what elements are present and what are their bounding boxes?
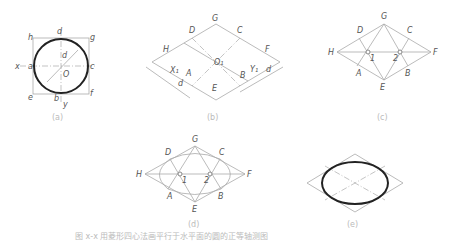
label-G: G [212, 14, 218, 23]
label-diameter: d [62, 51, 68, 60]
label-2: 2 [393, 54, 398, 63]
panel-c: G D C H F 1 2 A B E (c) [328, 12, 438, 122]
label-C: C [219, 148, 225, 157]
label-A: A [166, 192, 172, 201]
label-D: D [165, 148, 171, 157]
label-C: C [407, 26, 413, 35]
label-c: c [90, 62, 95, 71]
label-C: C [237, 26, 243, 35]
label-H: H [328, 48, 334, 57]
label-O: O [63, 70, 69, 79]
label-F: F [265, 45, 270, 54]
label-b: b [54, 94, 59, 103]
label-X1: X₁ [169, 66, 179, 75]
label-1: 1 [182, 176, 187, 185]
label-d-right: d [266, 65, 272, 74]
panel-e: (e) [307, 154, 403, 229]
label-D: D [189, 26, 195, 35]
label-h: h [28, 33, 33, 42]
label-G: G [192, 135, 198, 144]
label-D: D [357, 26, 363, 35]
isometric-circle-diagram: h d g x a c d O e b y f (a) G D C H F O₁… [0, 0, 450, 242]
label-x: x [14, 62, 20, 71]
caption-b: (b) [207, 113, 218, 122]
label-H: H [163, 45, 169, 54]
label-g: g [90, 33, 95, 42]
label-f: f [90, 89, 94, 98]
label-Y1: Y₁ [250, 65, 258, 74]
label-E: E [212, 84, 218, 93]
caption-a: (a) [52, 113, 63, 122]
caption-c: (c) [377, 113, 388, 122]
label-B: B [240, 71, 246, 80]
label-e: e [28, 93, 33, 102]
panel-a: h d g x a c d O e b y f (a) [14, 27, 96, 122]
caption-d: (d) [188, 220, 199, 229]
label-a: a [28, 62, 33, 71]
label-A: A [355, 69, 361, 78]
label-F: F [247, 170, 252, 179]
label-O1: O₁ [214, 58, 224, 67]
label-A: A [185, 69, 191, 78]
label-y: y [62, 100, 68, 109]
label-G: G [381, 12, 387, 21]
label-d: d [57, 27, 63, 36]
label-1: 1 [370, 54, 375, 63]
label-2: 2 [204, 176, 209, 185]
panel-b: G D C H F O₁ X₁ A B Y₁ d d E (b) [146, 14, 283, 122]
label-B: B [218, 192, 224, 201]
label-E: E [380, 83, 386, 92]
label-F: F [433, 48, 438, 57]
panel-d: G D C H F 1 2 A B E (d) [136, 135, 252, 229]
label-E: E [192, 205, 198, 214]
label-H: H [136, 170, 142, 179]
label-B: B [405, 69, 411, 78]
caption-e: (e) [347, 220, 358, 229]
figure-caption: 图 x-x 用菱形四心法画平行于水平面的圆的正等轴测图 [75, 231, 268, 241]
